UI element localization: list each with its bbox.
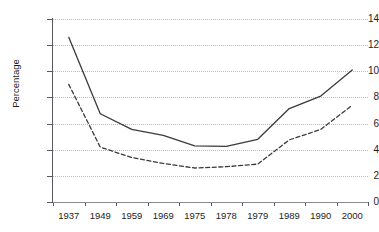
x-tick-mark [368, 202, 369, 206]
y-tick-mark [47, 202, 52, 203]
plot-area [53, 19, 368, 202]
series-svg [53, 19, 368, 202]
y-tick-mark [47, 176, 52, 177]
y-axis-title: Percentage [10, 41, 21, 127]
chart-container: Percentage 02468101214 19371949195919691… [0, 0, 379, 232]
series-layer [53, 19, 368, 202]
y-tick-mark [47, 71, 52, 72]
y-tick-mark [47, 124, 52, 125]
y-tick-mark [47, 150, 52, 151]
y-tick-mark [47, 19, 52, 20]
series-line-dashed-series [69, 84, 353, 168]
series-line-solid-series [69, 37, 353, 146]
gridline [53, 202, 368, 203]
x-tick-label: 2000 [332, 211, 372, 221]
y-tick-mark [47, 45, 52, 46]
y-tick-mark [47, 97, 52, 98]
